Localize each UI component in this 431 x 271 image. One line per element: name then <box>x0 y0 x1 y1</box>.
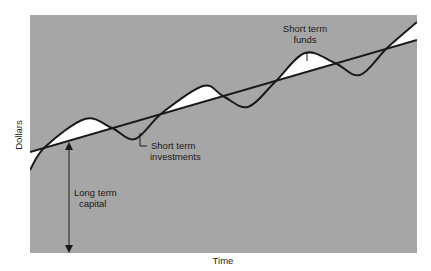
label-short-term-investments-1: Short term <box>151 140 195 151</box>
financing-diagram: Short term funds Short term investments … <box>0 0 431 271</box>
label-short-term-investments-2: investments <box>150 151 201 162</box>
y-axis-label: Dollars <box>13 120 24 150</box>
label-long-term-capital-1: Long term <box>74 187 117 198</box>
label-long-term-capital-2: capital <box>79 198 106 209</box>
x-axis-label: Time <box>213 255 234 266</box>
label-short-term-funds-1: Short term <box>283 23 327 34</box>
label-short-term-funds-2: funds <box>293 34 316 45</box>
